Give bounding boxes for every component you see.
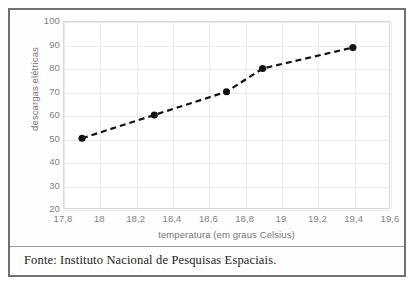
data-series-line — [64, 22, 389, 208]
y-tick-label: 50 — [26, 134, 60, 144]
source-caption: Fonte: Instituto Nacional de Pesquisas E… — [24, 253, 276, 268]
x-tick-label: 19,2 — [297, 213, 337, 224]
figure-container: descargas elétricas 1009080706050403020 … — [8, 8, 406, 277]
data-point-marker — [349, 44, 356, 51]
chart-plot-region: descargas elétricas 1009080706050403020 … — [10, 10, 404, 242]
x-tick-label: 19 — [261, 213, 301, 224]
y-tick-label: 60 — [26, 110, 60, 120]
data-point-marker — [259, 65, 266, 72]
y-tick-label: 80 — [26, 63, 60, 73]
series-line — [82, 48, 353, 139]
x-tick-label: 17,8 — [43, 213, 83, 224]
data-point-marker — [151, 111, 158, 118]
gridline-vertical — [391, 22, 392, 208]
y-tick-label: 30 — [26, 181, 60, 191]
x-axis-title: temperatura (em graus Celsius) — [63, 229, 390, 240]
y-axis-tick-labels: 1009080706050403020 — [20, 21, 60, 209]
x-tick-label: 18,4 — [152, 213, 192, 224]
x-tick-label: 19,6 — [370, 213, 410, 224]
y-tick-label: 100 — [26, 16, 60, 26]
data-point-marker — [223, 88, 230, 95]
x-axis-tick-labels: 17,81818,218,418,618,81919,219,419,6 — [63, 213, 390, 227]
x-tick-label: 18,8 — [225, 213, 265, 224]
caption-divider — [10, 246, 404, 247]
y-tick-label: 70 — [26, 87, 60, 97]
x-tick-label: 19,4 — [334, 213, 374, 224]
x-tick-label: 18 — [79, 213, 119, 224]
y-tick-label: 90 — [26, 40, 60, 50]
x-tick-label: 18,6 — [188, 213, 228, 224]
data-point-marker — [78, 135, 85, 142]
gridline-horizontal — [64, 210, 389, 211]
plot-area — [63, 21, 390, 209]
y-tick-label: 40 — [26, 157, 60, 167]
x-tick-label: 18,2 — [116, 213, 156, 224]
